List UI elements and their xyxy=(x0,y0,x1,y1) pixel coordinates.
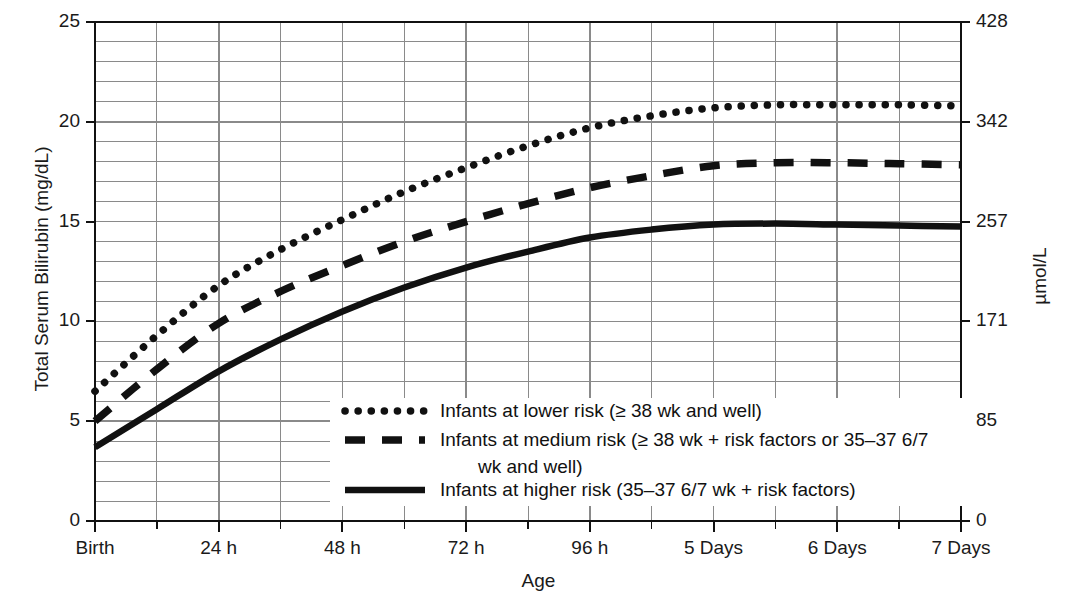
y-tick-label-right: 171 xyxy=(976,309,1046,331)
x-tick-label: 6 Days xyxy=(777,537,897,559)
y-tick-label-left: 5 xyxy=(20,409,80,431)
y-tick-label-right: 342 xyxy=(976,110,1046,132)
x-tick-label: 48 h xyxy=(282,537,402,559)
y-tick-label-right: 257 xyxy=(976,210,1046,232)
y-tick-label-right: 0 xyxy=(976,509,1046,531)
x-tick-label: 72 h xyxy=(406,537,526,559)
chart-plot-svg xyxy=(0,0,1077,604)
y-tick-label-left: 25 xyxy=(20,10,80,32)
x-tick-label: 7 Days xyxy=(901,537,1021,559)
x-axis-title: Age xyxy=(0,570,1077,592)
y-tick-label-right: 85 xyxy=(976,409,1046,431)
x-tick-label: 96 h xyxy=(530,537,650,559)
y-tick-label-left: 0 xyxy=(20,509,80,531)
y-axis-title-right: µmol/L xyxy=(1029,116,1051,436)
axis-ticks-bottom xyxy=(95,521,961,532)
x-tick-label: 5 Days xyxy=(654,537,774,559)
x-tick-label: 24 h xyxy=(159,537,279,559)
y-tick-label-left: 10 xyxy=(20,309,80,331)
legend-label-solid: Infants at higher risk (35–37 6/7 wk + r… xyxy=(440,477,856,503)
legend-label-dotted: Infants at lower risk (≥ 38 wk and well) xyxy=(440,398,762,424)
y-tick-label-right: 428 xyxy=(976,10,1046,32)
legend-label-dashed: Infants at medium risk (≥ 38 wk + risk f… xyxy=(440,427,928,453)
y-tick-label-left: 20 xyxy=(20,110,80,132)
x-tick-label: Birth xyxy=(35,537,155,559)
y-tick-label-left: 15 xyxy=(20,210,80,232)
axis-ticks-left xyxy=(86,22,95,521)
chart-figure: Total Serum Bilirubin (mg/dL) µmol/L Age… xyxy=(0,0,1077,604)
